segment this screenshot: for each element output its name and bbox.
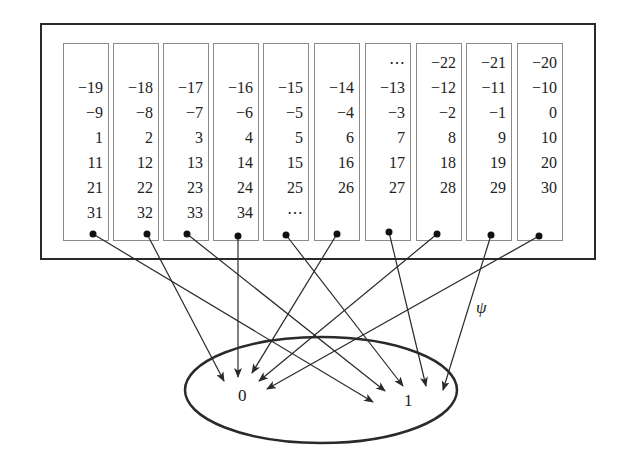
map-arrow-col10-to-0 xyxy=(267,236,539,389)
diagram-canvas: −19−91112131−18−82122232−17−73132333−16−… xyxy=(0,0,626,467)
target-element-1: 1 xyxy=(404,391,413,411)
column-dot-10 xyxy=(536,233,543,240)
column-dot-8 xyxy=(434,231,441,238)
column-dot-4 xyxy=(235,233,242,240)
column-dot-1 xyxy=(90,231,97,238)
column-dot-6 xyxy=(334,231,341,238)
column-dot-9 xyxy=(488,232,495,239)
psi-map-label: ψ xyxy=(476,298,487,318)
arrows-group xyxy=(93,232,539,402)
target-element-0: 0 xyxy=(238,386,247,406)
map-arrow-col8-to-0 xyxy=(259,234,437,381)
column-dot-3 xyxy=(184,231,191,238)
column-dot-7 xyxy=(386,229,393,236)
column-dot-5 xyxy=(283,232,290,239)
map-arrow-col1-to-1 xyxy=(93,234,373,402)
map-arrow-col7-to-1 xyxy=(389,232,426,386)
dots-group xyxy=(90,229,543,240)
column-dot-2 xyxy=(144,231,151,238)
target-set-ellipse xyxy=(185,337,457,443)
mapping-arrows-layer xyxy=(0,0,626,467)
